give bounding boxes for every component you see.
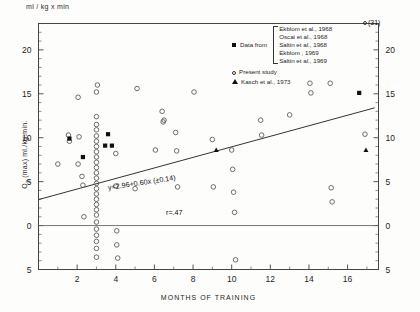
- legend-reference-item: Oscai et al., 1968: [279, 33, 332, 41]
- data-point-open-circle: [94, 246, 99, 251]
- data-point-open-circle: [94, 186, 99, 191]
- legend-data-from: Data from Ekblom et al., 1968 Oscai et a…: [232, 25, 332, 65]
- legend-reference-item: Ekblom , 1969: [279, 49, 332, 57]
- data-point-open-circle: [232, 210, 237, 215]
- data-point-open-circle: [135, 86, 140, 91]
- y-tick-label: 15: [22, 89, 32, 99]
- legend-reference-list: Ekblom et al., 1968 Oscai et al., 1968 S…: [273, 25, 332, 65]
- y-tick-label-right: 5: [386, 265, 391, 275]
- data-point-filled-square: [357, 91, 361, 95]
- data-point-open-circle: [174, 149, 179, 154]
- data-point-open-circle: [363, 132, 368, 137]
- y-tick-label-right: 5: [386, 177, 391, 187]
- data-point-open-circle: [95, 83, 100, 88]
- data-point-open-circle: [94, 139, 99, 144]
- data-point-open-circle: [94, 144, 99, 149]
- outlier-annotation: (31): [363, 19, 380, 26]
- open-circle-icon: [363, 21, 367, 25]
- data-point-open-circle: [160, 109, 165, 114]
- outlier-label: (31): [368, 19, 380, 26]
- data-point-filled-square: [67, 136, 71, 140]
- legend-present-study-label: Present study: [239, 68, 277, 76]
- x-tick-label: 12: [266, 274, 276, 284]
- data-point-filled-square: [103, 144, 107, 148]
- correlation-value: r=.47: [166, 208, 183, 217]
- data-point-open-circle: [94, 160, 99, 165]
- legend: Data from Ekblom et al., 1968 Oscai et a…: [232, 14, 332, 86]
- data-point-filled-square: [110, 144, 114, 148]
- data-point-filled-square: [106, 132, 110, 136]
- open-circle-icon: [232, 71, 236, 75]
- y-tick-label: 0: [27, 221, 32, 231]
- data-point-open-circle: [56, 162, 61, 167]
- y-tick-label-right: 10: [386, 133, 396, 143]
- data-point-open-circle: [230, 167, 235, 172]
- data-point-open-circle: [115, 256, 120, 261]
- x-tick-label: 10: [227, 274, 237, 284]
- data-point-open-circle: [309, 91, 314, 96]
- data-point-open-circle: [94, 114, 99, 119]
- data-point-open-circle: [77, 135, 82, 140]
- data-point-open-circle: [94, 134, 99, 139]
- data-point-open-circle: [113, 151, 118, 156]
- data-point-open-circle: [94, 165, 99, 170]
- y-tick-label: 20: [22, 45, 32, 55]
- data-point-filled-triangle: [363, 147, 368, 152]
- data-point-open-circle: [211, 185, 216, 190]
- x-axis-title: MONTHS OF TRAINING: [161, 294, 256, 301]
- x-tick-label: 8: [191, 274, 196, 284]
- data-point-open-circle: [94, 176, 99, 181]
- data-point-open-circle: [94, 192, 99, 197]
- data-point-open-circle: [94, 239, 99, 244]
- plot-canvas: 202015151010550055246810121416MONTHS OF …: [0, 0, 420, 312]
- data-point-open-circle: [94, 171, 99, 176]
- data-point-open-circle: [94, 197, 99, 202]
- data-point-open-circle: [175, 185, 180, 190]
- legend-present-study: Present study: [232, 68, 332, 76]
- data-point-open-circle: [76, 95, 81, 100]
- data-point-open-circle: [258, 118, 263, 123]
- filled-triangle-icon: [232, 79, 238, 84]
- data-point-open-circle: [94, 149, 99, 154]
- legend-reference-item: Saltin et al., 1968: [279, 41, 332, 49]
- data-point-open-circle: [231, 190, 236, 195]
- data-point-open-circle: [80, 174, 85, 179]
- data-point-open-circle: [229, 148, 234, 153]
- x-tick-label: 2: [75, 274, 80, 284]
- x-tick-label: 4: [113, 274, 118, 284]
- data-point-open-circle: [330, 200, 335, 205]
- data-point-open-circle: [94, 233, 99, 238]
- data-point-open-circle: [173, 130, 178, 135]
- data-point-filled-triangle: [214, 147, 219, 152]
- legend-data-from-label: Data from: [240, 41, 267, 49]
- regression-line: [39, 108, 375, 200]
- data-point-open-circle: [114, 243, 119, 248]
- data-point-open-circle: [210, 137, 215, 142]
- filled-square-icon: [232, 43, 236, 47]
- data-point-open-circle: [81, 183, 86, 188]
- y-tick-label: 10: [22, 133, 32, 143]
- data-point-open-circle: [329, 185, 334, 190]
- data-point-filled-square: [81, 155, 85, 159]
- y-tick-label-right: 0: [386, 221, 391, 231]
- data-point-open-circle: [76, 162, 81, 167]
- data-point-open-circle: [94, 128, 99, 133]
- data-point-open-circle: [153, 148, 158, 153]
- chart-root: ml / kg x min O2 (max) ml./kg.min. 20201…: [0, 0, 420, 312]
- data-point-open-circle: [114, 229, 119, 234]
- legend-reference-item: Saltin et al., 1969: [279, 57, 332, 65]
- data-point-open-circle: [94, 220, 99, 225]
- data-point-open-circle: [82, 214, 87, 219]
- y-tick-label-right: 15: [386, 89, 396, 99]
- data-point-open-circle: [94, 122, 99, 127]
- y-tick-label: 5: [27, 177, 32, 187]
- data-point-open-circle: [233, 258, 238, 263]
- data-point-open-circle: [192, 90, 197, 95]
- data-point-open-circle: [94, 213, 99, 218]
- x-tick-label: 14: [304, 274, 314, 284]
- data-point-open-circle: [259, 133, 264, 138]
- legend-reference-item: Ekblom et al., 1968: [279, 25, 332, 33]
- y-tick-label-right: 20: [386, 45, 396, 55]
- data-point-open-circle: [94, 155, 99, 160]
- data-point-open-circle: [94, 202, 99, 207]
